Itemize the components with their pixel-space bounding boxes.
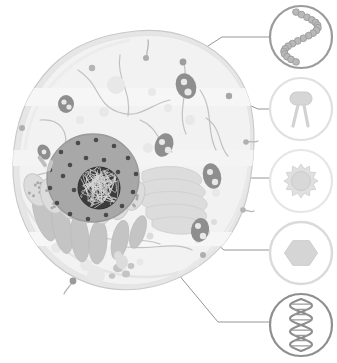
- ribosome-dot: [32, 194, 35, 197]
- ribosome-dot: [34, 184, 37, 187]
- membrane-protein-8: [70, 278, 77, 285]
- membrane-protein-6: [200, 252, 206, 258]
- ribosome-dot: [132, 203, 135, 206]
- callout-1[interactable]: [270, 6, 332, 68]
- cytoplasm-vesicle-12: [193, 261, 199, 267]
- nuclear-pore: [72, 188, 77, 193]
- cytoplasm-vesicle-10: [212, 189, 220, 197]
- nuclear-pore: [104, 213, 109, 218]
- nuclear-pore: [76, 141, 81, 146]
- nuclear-pore: [68, 212, 73, 217]
- nuclear-pore: [86, 217, 91, 222]
- lysosome-lumen: [181, 79, 187, 85]
- nuclear-pore: [116, 170, 121, 175]
- cytoplasm-vesicle-1: [99, 107, 109, 117]
- membrane-protein-3: [226, 93, 232, 99]
- nuclear-pore: [55, 201, 60, 206]
- virion-core: [292, 172, 311, 191]
- cytoplasm-vesicle-9: [137, 259, 144, 266]
- nucleus: [47, 134, 139, 222]
- lysosome-lumen: [212, 179, 218, 185]
- lysosome-lumen: [66, 104, 71, 109]
- callout-5[interactable]: [270, 294, 332, 356]
- nuclear-pore: [120, 204, 125, 209]
- nuclear-pore: [84, 156, 89, 161]
- lysosome-lumen: [159, 139, 165, 145]
- golgi-vesicle-1: [211, 219, 217, 225]
- lysosome-lumen: [184, 88, 191, 95]
- callout-4[interactable]: [270, 222, 332, 284]
- nuclear-pore: [68, 163, 73, 168]
- diagram-canvas: [0, 0, 337, 363]
- ribosome-dot: [36, 181, 39, 184]
- cytoplasm-vesicle-2: [148, 88, 156, 96]
- nuclear-pore: [131, 190, 136, 195]
- lysosome-lumen: [42, 150, 47, 155]
- cytoplasm-vesicle-6: [185, 115, 195, 125]
- nuclear-pore: [59, 150, 64, 155]
- golgi-vesicle-2: [147, 233, 154, 240]
- cytoplasm-vesicle-7: [164, 104, 172, 112]
- lysosome-4: [58, 95, 74, 113]
- membrane-protein-1: [143, 55, 149, 61]
- lysosome-lumen: [165, 147, 171, 153]
- membrane-protein-4: [243, 139, 249, 145]
- nuclear-pore: [61, 174, 66, 179]
- cell-diagram-figure: [0, 0, 337, 363]
- membrane-protein-2: [180, 59, 187, 66]
- callout-circles: [270, 6, 332, 356]
- vesicle-cluster-1: [122, 271, 130, 278]
- ribosome-dot: [28, 192, 31, 195]
- callout-ring[interactable]: [270, 78, 332, 140]
- nuclear-pore: [94, 138, 99, 143]
- chain-bead: [293, 59, 300, 66]
- nuclear-pore: [126, 156, 131, 161]
- membrane-protein-7: [19, 125, 25, 131]
- cytoplasm-vesicle-3: [143, 143, 153, 153]
- lysosome-lumen: [200, 233, 206, 239]
- ribosome-dot: [45, 189, 48, 192]
- callout-2[interactable]: [270, 78, 332, 140]
- membrane-protein-5: [240, 207, 246, 213]
- vesicle-cluster-2: [128, 263, 135, 269]
- cytoplasm-vesicle-0: [107, 76, 125, 94]
- nuclear-pore: [48, 186, 53, 191]
- ribosome-dot: [53, 205, 56, 208]
- membrane-protein-0: [89, 65, 95, 71]
- lysosome-lumen: [61, 99, 66, 104]
- callout-3[interactable]: [270, 150, 332, 212]
- lysosome-lumen: [207, 169, 213, 175]
- cytoplasm-vesicle-11: [76, 116, 84, 124]
- nuclear-pore: [112, 144, 117, 149]
- receptor-head: [290, 92, 312, 105]
- lysosome-lumen: [195, 223, 201, 229]
- nuclear-pore: [102, 158, 107, 163]
- vesicle-cluster-3: [109, 273, 115, 278]
- nuclear-pore: [134, 172, 139, 177]
- vesicle-cluster-pale-1: [114, 251, 122, 261]
